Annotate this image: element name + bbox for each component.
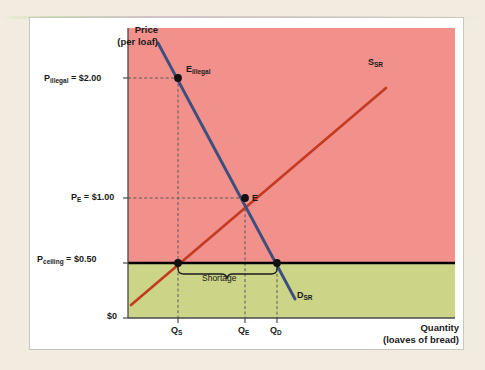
point-equilibrium — [241, 194, 249, 202]
y-tick-label-p-illegal: Pillegal = $2.00 — [44, 73, 101, 84]
shortage-annotation-label: Shortage — [202, 273, 237, 283]
demand-label-prefix: D — [297, 290, 304, 300]
point-e-illegal — [174, 74, 182, 82]
p-ceiling-value: $0.50 — [74, 254, 97, 264]
qe-subscript: E — [245, 329, 249, 336]
x-axis-title-line1: Quantity — [420, 322, 459, 333]
supply-curve-label: SSR — [368, 57, 383, 68]
point-label-e-illegal: Eillegal — [186, 64, 210, 75]
demand-curve-label: DSR — [297, 290, 313, 301]
p-ceiling-subscript: ceiling — [43, 258, 64, 265]
p-illegal-value: $2.00 — [79, 73, 102, 83]
e-illegal-subscript: illegal — [192, 68, 210, 75]
x-tick-label-q-demanded: QD — [270, 325, 282, 336]
p-e-value: $1.00 — [92, 192, 115, 202]
qe-prefix: Q — [238, 325, 245, 335]
y-tick-label-p-equilibrium: PE = $1.00 — [71, 192, 114, 203]
qs-subscript: S — [178, 329, 182, 336]
p-illegal-equals: = — [68, 73, 78, 83]
x-tick-label-q-supplied: QS — [171, 325, 182, 336]
point-q-demanded-ceiling — [273, 259, 281, 267]
supply-label-subscript: SR — [374, 61, 383, 68]
chart-plot-area: Price (per loaf) Quantity (loaves of bre… — [0, 0, 485, 370]
region-above-ceiling — [128, 28, 455, 263]
point-label-equilibrium: E — [252, 193, 258, 204]
p-ceiling-equals: = — [64, 254, 74, 264]
qs-prefix: Q — [171, 325, 178, 335]
y-tick-label-origin: $0 — [107, 311, 117, 322]
x-tick-label-q-equilibrium: QE — [238, 325, 249, 336]
p-illegal-subscript: illegal — [50, 77, 68, 84]
p-e-equals: = — [81, 192, 91, 202]
x-axis-title: Quantity (loaves of bread) — [356, 322, 459, 345]
qd-subscript: D — [277, 329, 282, 336]
y-tick-label-p-ceiling: Pceiling = $0.50 — [37, 254, 96, 265]
point-q-supplied-ceiling — [174, 259, 182, 267]
supply-demand-chart-svg — [0, 0, 485, 370]
y-axis-title-line2: (per loaf) — [117, 36, 158, 47]
y-axis-title: Price (per loaf) — [86, 24, 158, 47]
y-axis-title-line1: Price — [135, 24, 158, 35]
x-axis-title-line2: (loaves of bread) — [383, 334, 459, 345]
p-e-subscript: E — [77, 196, 81, 203]
qd-prefix: Q — [270, 325, 277, 335]
demand-label-subscript: SR — [304, 294, 313, 301]
